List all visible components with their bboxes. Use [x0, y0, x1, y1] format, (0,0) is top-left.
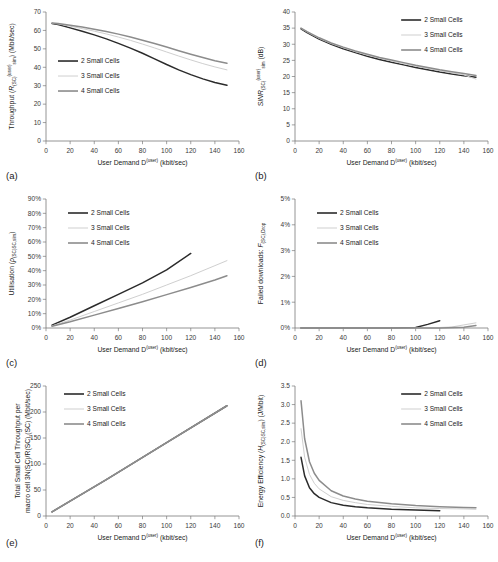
svg-text:1%: 1% — [280, 299, 290, 306]
svg-text:0: 0 — [44, 147, 48, 154]
svg-text:50: 50 — [34, 486, 42, 493]
svg-text:Failed downloads: F(SC),Drop: Failed downloads: F(SC),Drop — [257, 222, 266, 304]
svg-text:20%: 20% — [28, 296, 41, 303]
svg-text:60: 60 — [364, 334, 372, 341]
svg-text:30: 30 — [283, 41, 291, 48]
svg-text:40: 40 — [91, 522, 99, 529]
svg-text:40: 40 — [340, 522, 348, 529]
svg-text:140: 140 — [209, 147, 220, 154]
figure-grid: 010203040506070020406080100120140160User… — [0, 0, 498, 562]
svg-text:80%: 80% — [28, 210, 41, 217]
svg-text:40: 40 — [340, 334, 348, 341]
svg-text:100: 100 — [161, 334, 172, 341]
svg-text:70%: 70% — [28, 224, 41, 231]
svg-text:Total Small Cell Throughput pe: Total Small Cell Throughput permacro cel… — [14, 389, 32, 513]
svg-text:160: 160 — [482, 522, 493, 529]
legend-label: 4 Small Cells — [424, 46, 463, 53]
svg-text:5: 5 — [286, 121, 290, 128]
svg-text:0: 0 — [293, 147, 297, 154]
svg-text:60: 60 — [115, 522, 123, 529]
svg-text:20: 20 — [66, 522, 74, 529]
svg-text:120: 120 — [185, 522, 196, 529]
svg-text:25: 25 — [283, 57, 291, 64]
legend-label: 3 Small Cells — [81, 72, 120, 79]
series-line — [301, 321, 440, 328]
svg-text:4%: 4% — [280, 221, 290, 228]
svg-text:160: 160 — [233, 522, 244, 529]
svg-text:2.0: 2.0 — [281, 438, 290, 445]
svg-text:120: 120 — [434, 522, 445, 529]
svg-text:User Demand D(user) (kbit/sec): User Demand D(user) (kbit/sec) — [346, 533, 436, 542]
series-line — [52, 261, 227, 326]
svg-text:0: 0 — [293, 334, 297, 341]
svg-text:0.5: 0.5 — [281, 494, 290, 501]
svg-text:0: 0 — [37, 137, 41, 144]
svg-text:50%: 50% — [28, 253, 41, 260]
svg-text:80: 80 — [388, 334, 396, 341]
svg-text:140: 140 — [458, 522, 469, 529]
plot-area-a: 010203040506070020406080100120140160User… — [0, 0, 249, 187]
svg-text:10: 10 — [34, 119, 42, 126]
svg-text:140: 140 — [458, 147, 469, 154]
legend-label: 2 Small Cells — [340, 209, 379, 216]
svg-text:120: 120 — [434, 334, 445, 341]
svg-text:80: 80 — [388, 147, 396, 154]
svg-text:User Demand D(user) (kbit/sec): User Demand D(user) (kbit/sec) — [346, 158, 436, 167]
legend-label: 4 Small Cells — [424, 420, 463, 427]
legend-label: 3 Small Cells — [87, 405, 126, 412]
svg-text:10: 10 — [283, 105, 291, 112]
svg-text:2%: 2% — [280, 273, 290, 280]
series-line — [301, 401, 476, 508]
svg-text:3.5: 3.5 — [281, 382, 290, 389]
svg-text:40: 40 — [283, 8, 291, 15]
subplot-a: 010203040506070020406080100120140160User… — [0, 0, 249, 187]
series-line — [301, 429, 476, 510]
svg-text:100: 100 — [410, 334, 421, 341]
subplot-e: 050100150200250020406080100120140160User… — [0, 374, 249, 562]
svg-text:80: 80 — [388, 522, 396, 529]
svg-text:250: 250 — [30, 382, 41, 389]
svg-text:User Demand D(user) (kbit/sec): User Demand D(user) (kbit/sec) — [346, 345, 436, 354]
svg-text:20: 20 — [315, 147, 323, 154]
svg-text:0.0: 0.0 — [281, 512, 290, 519]
svg-text:Energy Efficiency (H(SC)SC,sim: Energy Efficiency (H(SC)SC,sim) (J/Mbit) — [257, 395, 266, 508]
svg-text:20: 20 — [315, 334, 323, 341]
svg-text:0: 0 — [44, 334, 48, 341]
panel-label-f: (f) — [255, 537, 264, 548]
series-line — [52, 406, 227, 512]
svg-text:140: 140 — [209, 522, 220, 529]
legend-label: 4 Small Cells — [81, 87, 120, 94]
svg-text:120: 120 — [434, 147, 445, 154]
legend-label: 4 Small Cells — [87, 420, 126, 427]
svg-text:70: 70 — [34, 8, 42, 15]
svg-text:40: 40 — [91, 334, 99, 341]
series-line — [301, 457, 440, 510]
svg-text:20: 20 — [315, 522, 323, 529]
svg-text:80: 80 — [139, 522, 147, 529]
svg-text:0: 0 — [286, 137, 290, 144]
svg-text:100: 100 — [30, 460, 41, 467]
legend-label: 2 Small Cells — [424, 390, 463, 397]
svg-text:60: 60 — [34, 27, 42, 34]
series-line — [52, 253, 191, 325]
svg-text:0: 0 — [293, 522, 297, 529]
svg-text:1.0: 1.0 — [281, 475, 290, 482]
svg-text:120: 120 — [185, 147, 196, 154]
legend-label: 4 Small Cells — [91, 239, 130, 246]
svg-text:140: 140 — [458, 334, 469, 341]
svg-text:60: 60 — [364, 147, 372, 154]
panel-label-a: (a) — [6, 170, 18, 181]
plot-area-e: 050100150200250020406080100120140160User… — [0, 374, 249, 562]
svg-text:160: 160 — [233, 334, 244, 341]
legend-label: 3 Small Cells — [91, 224, 130, 231]
svg-text:15: 15 — [283, 89, 291, 96]
subplot-c: 0%10%20%30%40%50%60%70%80%90%02040608010… — [0, 187, 249, 374]
legend-label: 2 Small Cells — [91, 209, 130, 216]
panel-label-e: (e) — [6, 537, 18, 548]
svg-text:User Demand D(user) (kbit/sec): User Demand D(user) (kbit/sec) — [97, 345, 187, 354]
svg-text:40: 40 — [91, 147, 99, 154]
svg-text:50: 50 — [34, 45, 42, 52]
svg-text:20: 20 — [34, 100, 42, 107]
svg-text:140: 140 — [209, 334, 220, 341]
svg-text:160: 160 — [482, 334, 493, 341]
